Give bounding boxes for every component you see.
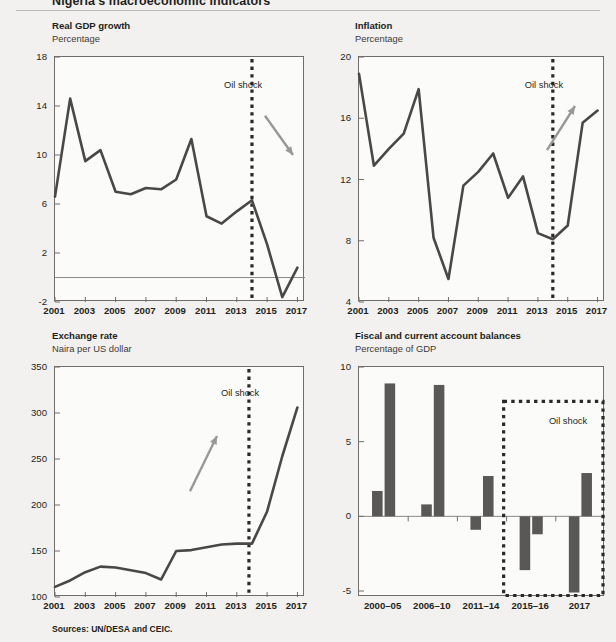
x-axis-category-label: 2011–14 [463,600,500,611]
x-axis-label: 2017 [586,305,607,316]
x-axis-label: 2015 [255,600,276,611]
sources-note: Sources: UN/DESA and CEIC. [52,624,173,634]
x-axis-label: 2013 [526,305,547,316]
y-axis-label: 0 [330,510,351,521]
y-axis-label: 18 [24,51,47,62]
x-axis-label: 2007 [134,600,155,611]
trend-arrow [265,116,293,155]
plot-area-fiscal-current-account: 1050-52000–052006–102011–142015–162017Oi… [330,360,612,620]
y-axis-label: 350 [14,361,47,372]
x-axis-label: 2011 [497,305,518,316]
x-axis-category-label: 2000–05 [364,600,401,611]
x-axis-label: 2009 [467,305,488,316]
x-axis-label: 2017 [286,305,307,316]
chart-svg-fiscal-current-account [359,367,605,597]
x-axis-label: 2017 [286,600,307,611]
y-axis-label: 6 [24,198,47,209]
bar-current-account-balance [483,476,494,516]
y-axis-label: 10 [24,149,47,160]
bar-current-account-balance [385,383,396,516]
panel-title-inflation: Inflation [355,20,392,32]
title-divider [16,10,600,11]
bar-current-account-balance [581,473,592,516]
oil-shock-label: Oil shock [525,80,563,90]
panel-real-gdp-growth: Real GDP growth Percentage 18141062-2200… [24,20,312,320]
bar-current-account-balance [532,516,543,534]
panel-title-fiscal-current-account: Fiscal and current account balances [355,330,521,342]
x-axis-label: 2011 [195,600,216,611]
x-axis-label: 2013 [225,305,246,316]
x-axis-label: 2001 [43,305,64,316]
y-axis-label: 250 [14,453,47,464]
panel-subtitle-real-gdp-growth: Percentage [52,33,100,45]
x-axis-label: 2015 [255,305,276,316]
trend-arrow [547,106,575,150]
plot-area-inflation: 2016128420012003200520072009201120132015… [330,50,612,320]
x-axis-label: 2003 [74,305,95,316]
y-axis-label: 12 [330,173,351,184]
panel-subtitle-inflation: Percentage [355,33,403,45]
x-axis-label: 2011 [195,305,216,316]
plot-frame-real-gdp-growth [54,56,304,301]
bar-fiscal-balance [520,516,531,570]
y-axis-label: 20 [330,51,351,62]
y-axis-label: 10 [330,361,351,372]
panel-exchange-rate: Exchange rate Naira per US dollar 350300… [14,330,312,620]
plot-frame-inflation [358,56,604,301]
plot-frame-fiscal-current-account [358,366,604,596]
oil-shock-label: Oil shock [224,80,262,90]
series-line-exchange-rate [55,407,297,586]
chart-svg-exchange-rate [55,367,305,597]
x-axis-label: 2007 [134,305,155,316]
chart-svg-real-gdp-growth [55,57,305,302]
x-axis-label: 2007 [437,305,458,316]
y-axis-label: 8 [330,234,351,245]
y-axis-label: 2 [24,247,47,258]
x-axis-label: 2009 [165,305,186,316]
bar-fiscal-balance [569,516,580,592]
panel-title-exchange-rate: Exchange rate [52,330,118,342]
y-axis-label: 5 [330,435,351,446]
bar-fiscal-balance [470,516,481,529]
figure-title: Nigeria's macroeconomic indicators [52,0,270,8]
panel-title-real-gdp-growth: Real GDP growth [52,20,130,32]
x-axis-category-label: 2006–10 [413,600,450,611]
panel-fiscal-current-account: Fiscal and current account balances Perc… [330,330,616,620]
x-axis-label: 2013 [225,600,246,611]
panel-subtitle-exchange-rate: Naira per US dollar [52,343,132,355]
x-axis-label: 2005 [104,600,125,611]
x-axis-label: 2003 [74,600,95,611]
y-axis-label: 300 [14,407,47,418]
y-axis-label: 14 [24,100,47,111]
panel-subtitle-fiscal-current-account: Percentage of GDP [355,343,436,355]
y-axis-label: 150 [14,545,47,556]
plot-area-real-gdp-growth: 18141062-2200120032005200720092011201320… [24,50,312,320]
x-axis-category-label: 2015–16 [512,600,549,611]
x-axis-label: 2015 [556,305,577,316]
x-axis-label: 2009 [165,600,186,611]
bar-fiscal-balance [421,504,432,516]
figure-page: Nigeria's macroeconomic indicators Real … [0,0,616,642]
oil-shock-label: Oil shock [549,416,587,426]
plot-frame-exchange-rate [54,366,304,596]
trend-arrow [190,436,217,491]
x-axis-label: 2001 [347,305,368,316]
y-axis-label: 16 [330,112,351,123]
y-axis-label: -5 [330,585,351,596]
series-line-real-gdp-growth [55,99,297,297]
panel-inflation: Inflation Percentage 2016128420012003200… [330,20,616,320]
y-axis-label: 100 [14,591,47,602]
bar-current-account-balance [434,385,445,516]
oil-shock-label: Oil shock [221,388,259,398]
bar-fiscal-balance [372,491,383,516]
series-line-inflation [359,74,598,279]
y-axis-label: 200 [14,499,47,510]
x-axis-label: 2003 [377,305,398,316]
x-axis-category-label: 2017 [569,600,590,611]
plot-area-exchange-rate: 3503002502001501002001200320052007200920… [14,360,312,620]
chart-svg-inflation [359,57,605,302]
x-axis-label: 2001 [43,600,64,611]
x-axis-label: 2005 [407,305,428,316]
x-axis-label: 2005 [104,305,125,316]
